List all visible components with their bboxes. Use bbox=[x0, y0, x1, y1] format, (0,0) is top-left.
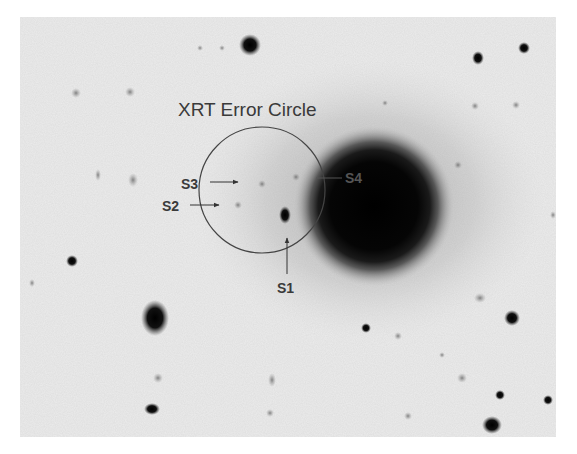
bright-galaxy bbox=[294, 126, 454, 286]
error-circle-label: XRT Error Circle bbox=[178, 99, 317, 120]
source-s1 bbox=[279, 206, 291, 224]
source-s2 bbox=[234, 201, 242, 209]
source-label-s4: S4 bbox=[345, 170, 362, 186]
source-s3 bbox=[258, 180, 266, 188]
faint-source bbox=[292, 173, 300, 181]
astronomical-image-figure: XRT Error Circle S3 S2 S1 S4 bbox=[0, 0, 577, 454]
source-label-s3-text: S3 bbox=[181, 176, 198, 192]
source-label-s1: S1 bbox=[277, 280, 294, 296]
source-label-s2: S2 bbox=[162, 198, 179, 214]
